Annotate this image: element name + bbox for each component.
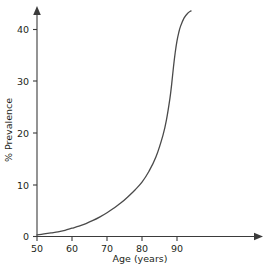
- y-tick-label-10: 10: [17, 180, 29, 191]
- y-tick-label-30: 30: [17, 76, 29, 87]
- x-tick-label-50: 50: [31, 243, 43, 254]
- x-tick-label-70: 70: [101, 243, 113, 254]
- x-tick-label-90: 90: [171, 243, 183, 254]
- chart-background: [0, 0, 270, 265]
- x-tick-label-60: 60: [66, 243, 78, 254]
- chart-figure: 0 10 20 30 40 50 60 70 80 90 Age (years)…: [0, 0, 270, 265]
- x-axis-title: Age (years): [113, 253, 168, 264]
- y-tick-label-40: 40: [17, 24, 29, 35]
- prevalence-line-chart: 0 10 20 30 40 50 60 70 80 90 Age (years)…: [0, 0, 270, 265]
- y-tick-label-0: 0: [23, 231, 29, 242]
- y-tick-label-20: 20: [17, 128, 29, 139]
- y-axis-title: % Prevalence: [3, 98, 14, 162]
